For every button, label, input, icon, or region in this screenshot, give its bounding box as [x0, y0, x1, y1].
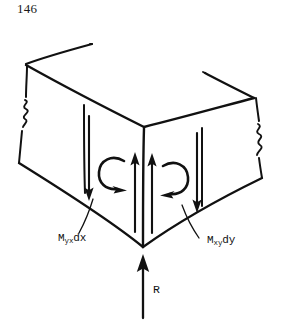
top-far-right-tail — [203, 72, 205, 73]
left-moment-curved-arrow-arc — [99, 158, 124, 189]
label-moment-yx-subscript: yx — [65, 237, 74, 245]
top-left-far-edge — [26, 44, 92, 64]
label-reaction: R — [153, 283, 160, 296]
left-break-zigzag — [23, 100, 28, 127]
label-moment-xy-subscript: xy — [214, 239, 223, 247]
top-edge-front-right — [144, 98, 254, 127]
right-vertical-edge-upper — [256, 98, 259, 121]
label-moment-xy: Mxydy — [207, 234, 235, 247]
leader-line-left-moment — [79, 199, 93, 233]
right-break-zigzag — [257, 124, 262, 155]
label-moment-yx: Myxdx — [58, 232, 86, 245]
label-moment-yx-differential: dx — [73, 232, 86, 244]
figure-container: 146 — [0, 0, 283, 328]
left-vertical-edge-upper — [26, 66, 27, 97]
right-vertical-edge-lower — [259, 158, 262, 178]
label-moment-xy-differential: dy — [222, 234, 235, 246]
center-vertical-edge — [143, 128, 144, 247]
left-vertical-edge-lower — [19, 131, 22, 163]
top-edge-right-far — [205, 73, 254, 98]
plate-element-diagram — [0, 0, 283, 328]
left-panel-divider-edge — [84, 105, 85, 193]
right-moment-curved-arrow-arc — [163, 163, 188, 194]
